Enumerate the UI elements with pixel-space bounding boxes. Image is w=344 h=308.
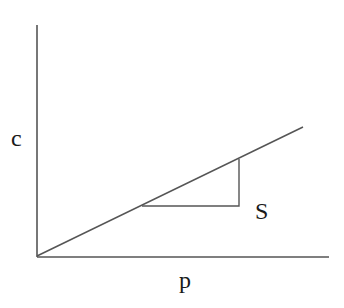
slope-label: S (255, 199, 268, 223)
diagram-canvas (0, 0, 344, 308)
slope-triangle (142, 159, 239, 206)
y-axis-label: c (11, 126, 22, 150)
x-axis-label: p (179, 268, 191, 292)
linear-relation-line (37, 127, 303, 256)
